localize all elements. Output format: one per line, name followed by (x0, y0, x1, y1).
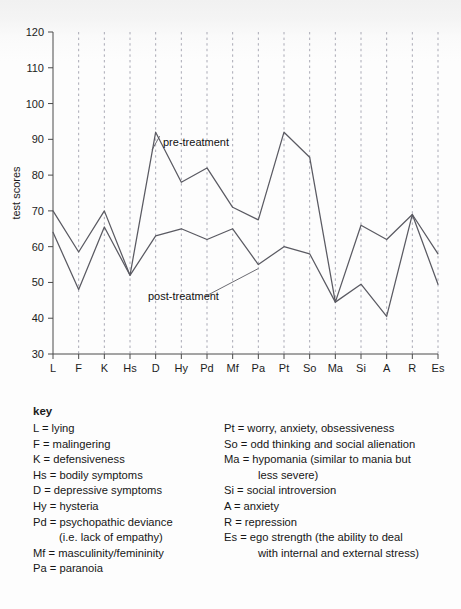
line-chart: test scores 30405060708090100110120 LFKH… (0, 8, 461, 393)
key-right-item-6: Es = ego strength (the ability to deal (224, 530, 456, 546)
x-tick-label-L: L (50, 362, 56, 374)
key-left-item-0: L = lying (33, 421, 223, 437)
y-axis-title: test scores (10, 166, 22, 220)
chart-figure: test scores 30405060708090100110120 LFKH… (0, 8, 461, 393)
y-tick-label-120: 120 (26, 26, 44, 38)
x-tick-label-Pd: Pd (200, 362, 213, 374)
key-left-item-5: Hy = hysteria (33, 499, 223, 515)
x-tick-label-Hs: Hs (123, 362, 137, 374)
key-right-item-5: R = repression (224, 515, 456, 531)
chart-gridlines (79, 32, 438, 354)
y-tick-label-90: 90 (32, 133, 44, 145)
y-axis-tick-labels: 30405060708090100110120 (26, 26, 44, 360)
key-left-item-6: Pd = psychopathic deviance (33, 515, 223, 531)
key-right-item-2: Ma = hypomania (similar to mania but (224, 452, 456, 468)
x-axis-tick-labels: LFKHsDHyPdMfPaPtSoMaSiAREs (50, 362, 445, 374)
page-root: test scores 30405060708090100110120 LFKH… (0, 0, 461, 609)
key-left-item-4: D = depressive symptoms (33, 483, 223, 499)
series-line-pre-treatment (53, 132, 438, 302)
y-tick-label-100: 100 (26, 98, 44, 110)
y-tick-label-60: 60 (32, 241, 44, 253)
x-tick-label-Si: Si (356, 362, 366, 374)
y-tick-label-70: 70 (32, 205, 44, 217)
key-left-item-7: Mf = masculinity/femininity (33, 546, 223, 562)
chart-series (53, 132, 438, 316)
key-heading: key (33, 404, 52, 420)
key-right-item-3: Si = social introversion (224, 483, 456, 499)
x-tick-label-K: K (101, 362, 109, 374)
x-tick-label-Mf: Mf (227, 362, 240, 374)
y-tick-label-30: 30 (32, 348, 44, 360)
annotation-pre-treatment: pre-treatment (163, 136, 229, 148)
key-left-item-2: K = defensiveness (33, 452, 223, 468)
key-left-item-1: F = malingering (33, 437, 223, 453)
y-tick-label-110: 110 (26, 62, 44, 74)
x-tick-label-Hy: Hy (175, 362, 189, 374)
key-column-left: L = lyingF = malingeringK = defensivenes… (33, 421, 223, 577)
y-tick-label-40: 40 (32, 312, 44, 324)
key-left-item-3: Hs = bodily symptoms (33, 468, 223, 484)
key-right-item-6-continuation: with internal and external stress) (224, 546, 456, 562)
x-tick-label-So: So (303, 362, 316, 374)
y-tick-label-50: 50 (32, 276, 44, 288)
key-right-item-1: So = odd thinking and social alienation (224, 437, 456, 453)
x-tick-label-R: R (408, 362, 416, 374)
x-tick-label-F: F (75, 362, 82, 374)
key-right-item-0: Pt = worry, anxiety, obsessiveness (224, 421, 456, 437)
y-axis-title-text: test scores (10, 166, 22, 220)
key-right-item-4: A = anxiety (224, 499, 456, 515)
key-column-right: Pt = worry, anxiety, obsessivenessSo = o… (224, 421, 456, 561)
x-tick-label-Pt: Pt (279, 362, 289, 374)
key-left-item-6-continuation: (i.e. lack of empathy) (33, 530, 223, 546)
series-line-post-treatment (53, 214, 438, 316)
key-right-item-2-continuation: less severe) (224, 468, 456, 484)
x-tick-label-Ma: Ma (328, 362, 344, 374)
key-left-item-8: Pa = paranoia (33, 561, 223, 577)
series-annotations: pre-treatmentpost-treatment (148, 136, 258, 302)
x-tick-label-A: A (383, 362, 391, 374)
chart-key: key L = lyingF = malingeringK = defensiv… (0, 400, 461, 609)
x-tick-label-D: D (152, 362, 160, 374)
y-tick-label-80: 80 (32, 169, 44, 181)
annotation-post-treatment: post-treatment (148, 290, 219, 302)
chart-axes (48, 32, 438, 359)
x-tick-label-Pa: Pa (252, 362, 266, 374)
x-tick-label-Es: Es (432, 362, 445, 374)
